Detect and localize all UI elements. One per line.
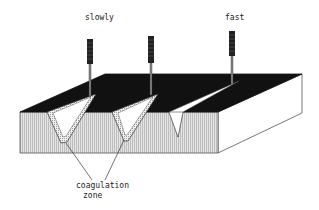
label-slowly: slowly xyxy=(85,13,114,22)
diagram-canvas: slowly fast coagulation zone xyxy=(0,0,319,210)
label-coagulation: coagulation xyxy=(76,181,129,190)
label-zone: zone xyxy=(83,191,102,200)
label-fast: fast xyxy=(225,13,244,22)
